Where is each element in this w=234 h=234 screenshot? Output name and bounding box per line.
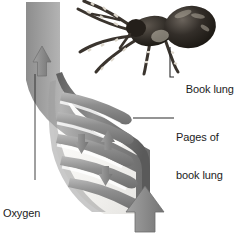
label-book-lung: Book lung [174, 70, 234, 108]
label-oxygen-absorbed: Oxygen absorbed [3, 182, 48, 234]
spider-leg-6 [166, 42, 178, 72]
label-pages-line1: Pages of [176, 131, 223, 144]
label-book-lung-text: Book lung [186, 83, 234, 95]
label-pages-of-book-lung: Pages of book lung [176, 106, 223, 206]
label-oxygen-line1: Oxygen [3, 207, 48, 220]
book-lung-figure: Book lung Pages of book lung Oxygen abso… [0, 0, 234, 234]
spider-photo [78, 1, 219, 74]
spider-leg-1 [84, 1, 128, 24]
spider-leg-5 [144, 42, 150, 74]
label-pages-line2: book lung [176, 169, 223, 182]
spider-abdomen [161, 2, 220, 52]
